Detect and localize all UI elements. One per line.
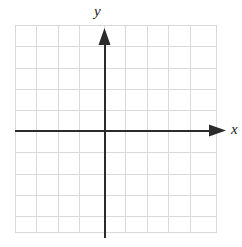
grid-horizontal-lines [15,26,217,233]
y-axis-label: y [94,4,101,19]
x-axis [15,125,226,137]
y-axis-arrowhead [99,28,111,45]
grid-vertical-lines [16,25,217,233]
y-axis [99,28,111,238]
x-axis-label: x [231,122,238,137]
coordinate-plane-svg [0,0,242,247]
coordinate-plane-figure: y x [0,0,242,247]
x-axis-arrowhead [209,125,226,137]
